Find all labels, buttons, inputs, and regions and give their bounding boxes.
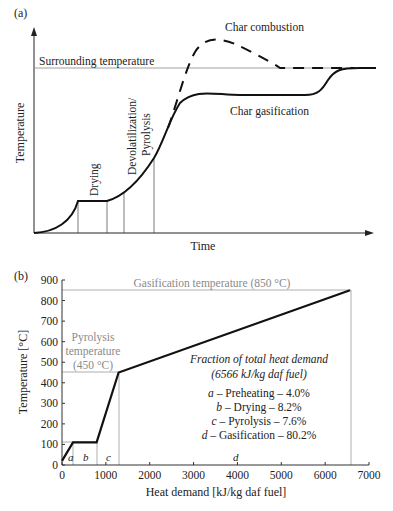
- a-surrounding-label: Surrounding temperature: [39, 55, 154, 68]
- a-y-axis-arrow-icon: [31, 27, 37, 36]
- b-annotation: Fraction of total heat demand (6566 kJ/k…: [189, 353, 328, 441]
- ann-line-b: b – Drying – 8.2%: [216, 401, 302, 414]
- x-tick-label: 7000: [358, 469, 381, 481]
- b-y-axis-label: Temperature [°C]: [16, 330, 30, 414]
- ann-title: Fraction of total heat demand: [189, 353, 328, 366]
- a-devol-label-1: Devolatilization/: [126, 97, 138, 175]
- a-x-axis-label: Time: [191, 239, 216, 253]
- a-char-gasification-label: Char gasification: [230, 105, 309, 118]
- ann-line-d: d – Gasification – 80.2%: [202, 429, 317, 441]
- b-seg-b-label: b: [83, 451, 89, 463]
- a-char-combustion-label: Char combustion: [225, 21, 304, 33]
- b-y-ticks: 0100200300400500600700800900: [41, 274, 65, 471]
- x-tick-label: 4000: [226, 469, 249, 481]
- b-pyrolysis-label-3: (450 °C): [73, 359, 113, 372]
- panel-a-label: (a): [14, 6, 27, 20]
- y-tick-label: 800: [41, 295, 59, 307]
- x-tick-label: 2000: [138, 469, 161, 481]
- b-pyrolysis-label-1: Pyrolysis: [72, 331, 115, 344]
- y-tick-label: 600: [41, 336, 59, 348]
- panel-b: (b) 0100200300400500600700800900 0100020…: [14, 269, 381, 499]
- y-tick-label: 200: [41, 418, 59, 430]
- x-tick-label: 1000: [94, 469, 117, 481]
- ann-line-a: a – Preheating – 4.0%: [208, 387, 310, 400]
- a-x-axis-arrow-icon: [365, 230, 374, 236]
- panel-b-label: (b): [14, 269, 28, 283]
- b-gasification-temp-label: Gasification temperature (850 °C): [134, 277, 291, 290]
- b-pyrolysis-label-2: temperature: [66, 345, 121, 358]
- a-drying-label: Drying: [88, 163, 101, 196]
- panel-a: (a) Surrounding temperature Char combust…: [13, 6, 376, 253]
- x-tick-label: 6000: [314, 469, 337, 481]
- y-tick-label: 900: [41, 274, 59, 286]
- ann-line-c: c – Pyrolysis – 7.6%: [212, 415, 307, 428]
- b-x-axis-label: Heat demand [kJ/kg daf fuel]: [146, 485, 287, 499]
- y-tick-label: 100: [41, 438, 59, 450]
- y-tick-label: 0: [52, 459, 58, 471]
- figure: (a) Surrounding temperature Char combust…: [0, 0, 393, 511]
- b-seg-d-label: d: [233, 451, 239, 463]
- y-tick-label: 500: [41, 356, 59, 368]
- y-tick-label: 700: [41, 315, 59, 327]
- x-tick-label: 0: [59, 469, 65, 481]
- y-tick-label: 300: [41, 397, 59, 409]
- b-seg-c-label: c: [106, 451, 111, 463]
- x-tick-label: 3000: [182, 469, 205, 481]
- b-seg-a-label: a: [68, 451, 74, 463]
- a-devol-label-2: Pyrolysis: [140, 113, 153, 156]
- a-char-gasification-curve: [34, 68, 376, 233]
- a-y-axis-label: Temperature: [13, 103, 27, 163]
- ann-subtitle: (6566 kJ/kg daf fuel): [211, 368, 307, 381]
- y-tick-label: 400: [41, 377, 59, 389]
- x-tick-label: 5000: [270, 469, 293, 481]
